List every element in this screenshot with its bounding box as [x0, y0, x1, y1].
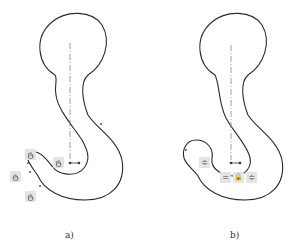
tangent-icon[interactable]: ტ: [25, 149, 36, 160]
equal-icon[interactable]: ≑: [246, 172, 257, 183]
tangent-icon[interactable]: ტ: [10, 171, 21, 182]
equal-glyph: =: [222, 174, 229, 182]
origin-point-b: [230, 162, 242, 165]
tangent-icon[interactable]: ტ: [53, 157, 64, 168]
panel-a-caption: a): [65, 230, 74, 240]
hook-diagram: [0, 0, 290, 249]
origin-point-a: [69, 162, 81, 165]
tangent-glyph: ტ: [56, 159, 62, 167]
tangent-icon[interactable]: ტ: [25, 191, 36, 202]
tangent-glyph: ტ: [28, 151, 34, 159]
endpoint-b: [185, 149, 187, 151]
equal-glyph: ≑: [248, 174, 255, 182]
tangent-glyph: ტ: [13, 173, 19, 181]
equal-icon[interactable]: ≑: [199, 157, 210, 168]
tangent-glyph: ტ: [28, 193, 34, 201]
equal-icon[interactable]: =: [220, 172, 231, 183]
equal-glyph: ≑: [201, 159, 208, 167]
lock-icon[interactable]: 🔒: [233, 172, 244, 183]
hook-profile-a: [27, 13, 122, 200]
lock-glyph: 🔒: [234, 174, 243, 181]
panel-b-caption: b): [230, 230, 239, 240]
